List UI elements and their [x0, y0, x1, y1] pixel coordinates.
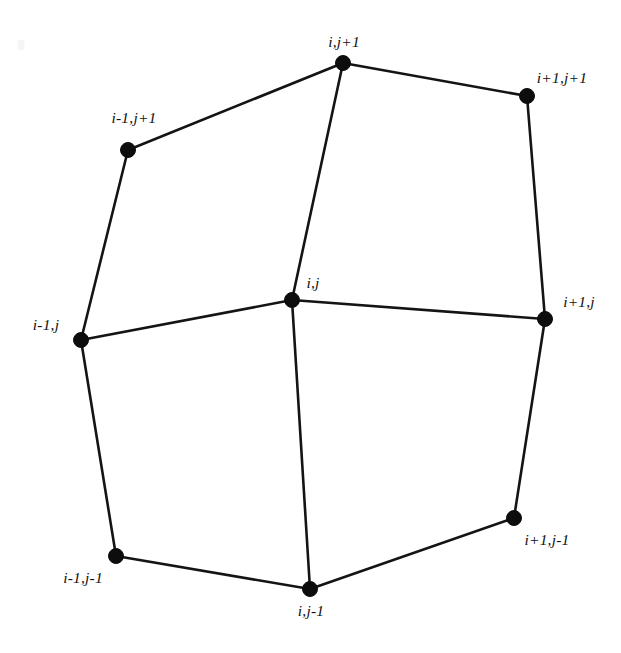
- node-label: i,j+1: [328, 34, 360, 50]
- scan-speck: [18, 40, 25, 51]
- edges-group: [81, 63, 545, 589]
- grid-node: [336, 56, 351, 71]
- node-label: i-1,j-1: [63, 570, 103, 586]
- grid-node: [74, 333, 89, 348]
- grid-node: [285, 293, 300, 308]
- grid-edge: [81, 340, 116, 556]
- grid-node: [303, 582, 318, 597]
- stencil-diagram: i-1,j+1i,j+1i+1,j+1i-1,ji,ji+1,ji-1,j-1i…: [0, 0, 621, 653]
- grid-node: [538, 312, 553, 327]
- grid-edge: [116, 556, 310, 589]
- grid-node: [520, 89, 535, 104]
- grid-node: [507, 511, 522, 526]
- node-label: i,j-1: [298, 603, 324, 619]
- node-label: i,j: [306, 275, 319, 291]
- grid-edge: [292, 63, 343, 300]
- grid-edge: [292, 300, 545, 319]
- grid-edge: [527, 96, 545, 319]
- grid-edge: [310, 518, 514, 589]
- node-label: i+1,j: [563, 294, 595, 310]
- node-label: i+1,j+1: [537, 70, 587, 86]
- grid-edge: [514, 319, 545, 518]
- stencil-canvas: [0, 0, 621, 653]
- grid-edge: [81, 150, 128, 340]
- node-label: i+1,j-1: [524, 532, 569, 548]
- grid-edge: [81, 300, 292, 340]
- grid-edge: [292, 300, 310, 589]
- node-label: i-1,j+1: [111, 110, 156, 126]
- grid-edge: [128, 63, 343, 150]
- grid-node: [121, 143, 136, 158]
- grid-node: [109, 549, 124, 564]
- grid-edge: [343, 63, 527, 96]
- nodes-group: [74, 56, 553, 597]
- node-label: i-1,j: [33, 317, 59, 333]
